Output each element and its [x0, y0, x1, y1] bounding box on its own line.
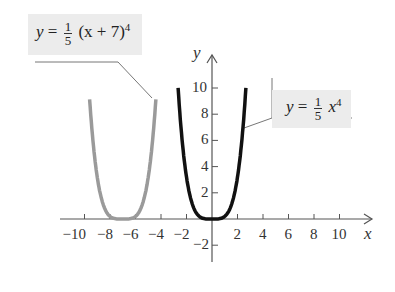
y-tick-label: 10	[192, 79, 207, 96]
label-shifted-equation: y = 15 (x + 7)4	[28, 14, 142, 55]
label-base-equation: y = 15 x4	[272, 90, 351, 128]
x-tick-label: 2	[234, 226, 242, 243]
y-tick-label: 8	[201, 105, 209, 122]
x-axis-label: x	[364, 224, 372, 244]
x-tick-label: −6	[123, 226, 139, 243]
y-axis-label: y	[193, 43, 201, 63]
y-tick-label: 2	[201, 184, 209, 201]
base-leader-line	[244, 78, 272, 128]
x-tick-label: −8	[97, 226, 113, 243]
y-tick-label: 4	[201, 158, 209, 175]
y-tick-label: 6	[201, 131, 209, 148]
x-tick-label: 6	[285, 226, 293, 243]
y-tick-label: −2	[193, 236, 209, 253]
shifted-leader-line	[35, 62, 152, 98]
x-tick-label: 10	[332, 226, 347, 243]
x-tick-label: −2	[174, 226, 190, 243]
curve-shifted	[90, 99, 156, 219]
x-tick-label: 8	[310, 226, 318, 243]
x-tick-label: −10	[63, 226, 86, 243]
x-tick-label: −4	[148, 226, 164, 243]
x-tick-label: 4	[259, 226, 267, 243]
